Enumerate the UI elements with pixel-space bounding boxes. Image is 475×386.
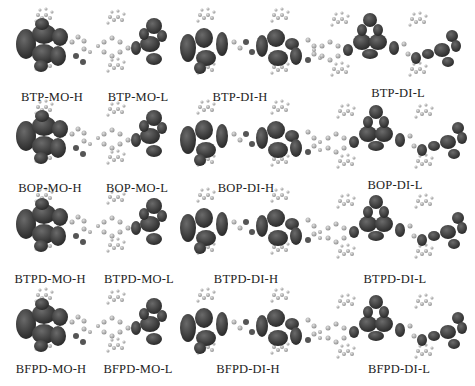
label-btp-di-h: BTP-DI-H (212, 90, 267, 105)
orbital-bop-mo-l (96, 102, 167, 165)
orbital-bop-mo-h (16, 100, 92, 165)
orbital-bfpd-di-h (180, 288, 322, 355)
orbital-bop-di-h (180, 100, 322, 167)
label-bop-di-h: BOP-DI-H (218, 181, 274, 196)
orbital-bfpd-mo-h (16, 288, 92, 353)
label-btp-mo-h: BTP-MO-H (21, 90, 83, 105)
orbital-bfpd-mo-l (96, 290, 167, 353)
orbital-btpd-di-l (318, 194, 467, 259)
label-bfpd-mo-h: BFPD-MO-H (16, 362, 87, 377)
label-btpd-mo-l: BTPD-MO-L (104, 272, 174, 287)
label-btpd-di-l: BTPD-DI-L (364, 272, 427, 287)
label-bop-mo-l: BOP-MO-L (106, 181, 168, 196)
orbital-btp-di-h (180, 8, 322, 75)
label-btp-di-l: BTP-DI-L (371, 86, 425, 101)
label-bfpd-di-h: BFPD-DI-H (216, 362, 280, 377)
orbital-bfpd-di-l (318, 294, 467, 359)
orbital-bop-di-l (318, 104, 467, 169)
orbital-btp-mo-h (16, 8, 92, 73)
orbital-btp-mo-l (96, 10, 167, 73)
label-btp-mo-l: BTP-MO-L (108, 90, 169, 105)
label-btpd-mo-h: BTPD-MO-H (14, 272, 85, 287)
label-bfpd-mo-l: BFPD-MO-L (103, 362, 172, 377)
orbital-btpd-mo-h (16, 188, 92, 253)
orbital-btpd-di-h (180, 188, 322, 255)
orbital-btp-di-l (312, 12, 461, 77)
label-bop-mo-h: BOP-MO-H (18, 181, 81, 196)
label-btpd-di-h: BTPD-DI-H (214, 272, 278, 287)
label-bop-di-l: BOP-DI-L (367, 178, 422, 193)
label-bfpd-di-l: BFPD-DI-L (368, 362, 430, 377)
orbital-btpd-mo-l (96, 190, 167, 253)
